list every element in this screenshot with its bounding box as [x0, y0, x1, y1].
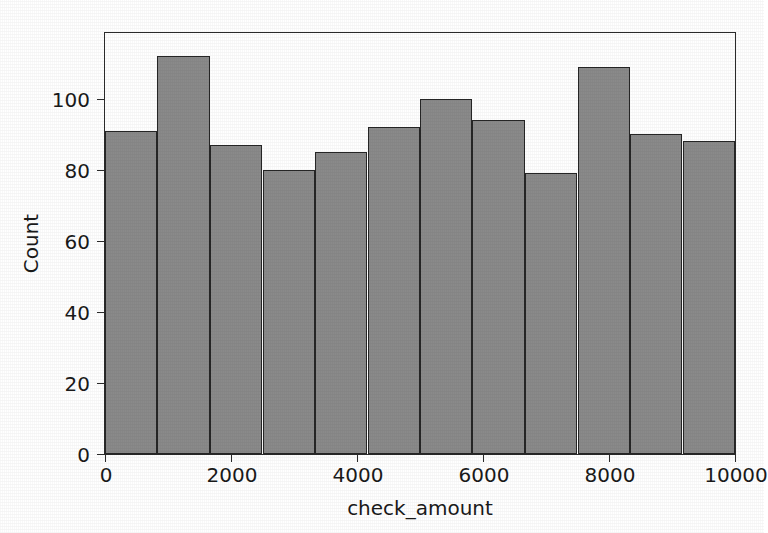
- histogram-bar: [578, 67, 630, 454]
- y-tick: 20: [97, 383, 105, 384]
- histogram-bar: [525, 173, 577, 454]
- x-tick-label: 10000: [704, 465, 768, 485]
- histogram-bar: [157, 56, 210, 454]
- plot-area: [105, 33, 735, 454]
- histogram-bar: [105, 131, 157, 454]
- y-tick-label: 40: [65, 303, 90, 323]
- x-tick: 8000: [609, 454, 610, 462]
- histogram-bar: [263, 170, 315, 454]
- x-tick-label: 8000: [585, 465, 636, 485]
- x-tick: 0: [105, 454, 106, 462]
- plot-axes: 020406080100 0200040006000800010000: [104, 32, 736, 455]
- y-axis-label: Count: [18, 32, 44, 455]
- histogram-bar: [368, 127, 420, 454]
- histogram-bar: [210, 145, 262, 454]
- x-tick-label: 6000: [459, 465, 510, 485]
- histogram-bar: [420, 99, 472, 454]
- histogram-bar: [683, 141, 735, 454]
- y-tick: 100: [97, 99, 105, 100]
- y-tick-label: 20: [65, 374, 90, 394]
- x-axis-label: check_amount: [104, 496, 736, 520]
- x-tick: 10000: [735, 454, 736, 462]
- histogram-bar: [315, 152, 368, 454]
- x-tick: 2000: [231, 454, 232, 462]
- x-tick-label: 2000: [207, 465, 258, 485]
- y-tick: 40: [97, 312, 105, 313]
- y-tick: 0: [97, 454, 105, 455]
- x-tick: 4000: [357, 454, 358, 462]
- y-tick-label: 100: [52, 90, 90, 110]
- histogram-bar: [472, 120, 525, 454]
- x-tick-label: 4000: [333, 465, 384, 485]
- y-tick-label: 0: [77, 445, 90, 465]
- y-tick-label: 80: [65, 161, 90, 181]
- y-tick: 80: [97, 170, 105, 171]
- x-tick: 6000: [483, 454, 484, 462]
- x-tick-label: 0: [100, 465, 113, 485]
- histogram-bar: [630, 134, 683, 454]
- y-tick: 60: [97, 241, 105, 242]
- y-tick-label: 60: [65, 232, 90, 252]
